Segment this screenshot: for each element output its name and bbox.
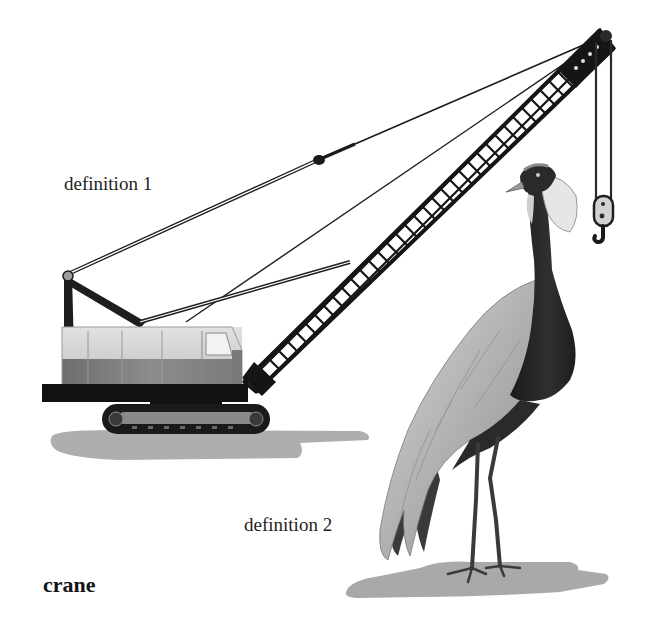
headword: crane (43, 574, 96, 596)
crawler-track (102, 404, 270, 434)
crane-cab (62, 327, 242, 386)
crane-ground-shadow (51, 430, 369, 460)
bird-ground-shadow (346, 562, 609, 598)
definition-1-label: definition 1 (64, 174, 152, 193)
hook-assembly (594, 40, 613, 242)
definition-2-label: definition 2 (244, 515, 332, 534)
crane-illustration (0, 0, 652, 637)
pendant-line (68, 36, 604, 274)
crane-deck (42, 384, 248, 402)
